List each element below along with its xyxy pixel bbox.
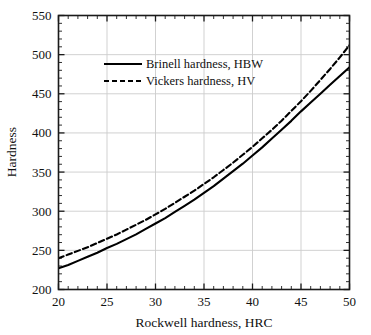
y-tick-label: 500 [32,47,52,62]
x-tick-label: 30 [149,294,162,309]
legend-label-brinell: Brinell hardness, HBW [146,57,263,71]
x-tick-label: 20 [52,294,65,309]
y-tick-label: 400 [32,125,52,140]
x-tick-label: 40 [246,294,259,309]
hardness-conversion-chart: 20253035404550 200250300350400450500550 … [0,0,371,335]
x-tick-label: 50 [343,294,356,309]
y-axis-title: Hardness [4,127,19,177]
y-tick-label: 250 [32,243,52,258]
y-tick-label: 450 [32,86,52,101]
x-tick-label: 25 [101,294,114,309]
y-tick-label: 550 [32,8,52,23]
chart-canvas: 20253035404550 200250300350400450500550 … [0,0,371,335]
legend-label-vickers: Vickers hardness, HV [146,74,255,88]
x-tick-label: 35 [198,294,211,309]
y-tick-label: 300 [32,204,52,219]
y-tick-label: 350 [32,165,52,180]
x-axis-title: Rockwell hardness, HRC [136,315,273,330]
x-tick-label: 45 [295,294,308,309]
chart-background [0,0,371,335]
y-tick-label: 200 [32,282,52,297]
